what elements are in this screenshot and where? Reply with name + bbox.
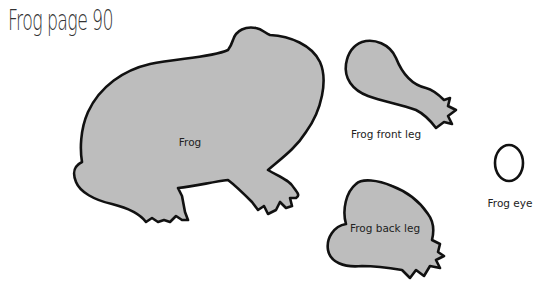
frog-front-leg-label: Frog front leg — [351, 128, 421, 140]
frog-body-label: Frog — [179, 136, 201, 148]
frog-body-shape — [74, 28, 324, 223]
frog-back-leg-label: Frog back leg — [350, 222, 420, 234]
frog-eye-shape — [495, 145, 523, 181]
template-canvas — [0, 0, 537, 291]
frog-front-leg-shape — [346, 41, 456, 128]
frog-eye-label: Frog eye — [488, 197, 533, 209]
